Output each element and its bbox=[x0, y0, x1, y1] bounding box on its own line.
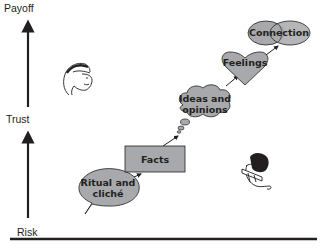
stage-label-ritual-line1: Ritual and bbox=[81, 177, 136, 188]
stage-label-ritual-line2: cliché bbox=[93, 188, 124, 199]
person-face-icon bbox=[64, 63, 92, 95]
stage-label-ideas-line1: Ideas and bbox=[179, 93, 231, 104]
stage-label-connection: Connection bbox=[249, 27, 309, 38]
stage-ritual-and-cliche: Ritual and cliché bbox=[79, 169, 139, 214]
stage-ideas-and-opinions: Ideas and opinions bbox=[177, 85, 231, 134]
stage-feelings: Feelings bbox=[222, 52, 268, 85]
stage-label-feelings: Feelings bbox=[223, 57, 268, 68]
diagram-canvas: Ritual and cliché Facts Ideas and opinio… bbox=[0, 0, 327, 252]
stage-label-facts: Facts bbox=[141, 154, 170, 165]
communication-levels-diagram: Payoff Trust Risk Ritual an bbox=[0, 0, 327, 252]
person-face-icon bbox=[242, 153, 271, 189]
stage-connection: Connection bbox=[248, 21, 310, 45]
stage-label-ideas-line2: opinions bbox=[182, 104, 228, 115]
stage-facts: Facts bbox=[125, 146, 185, 172]
